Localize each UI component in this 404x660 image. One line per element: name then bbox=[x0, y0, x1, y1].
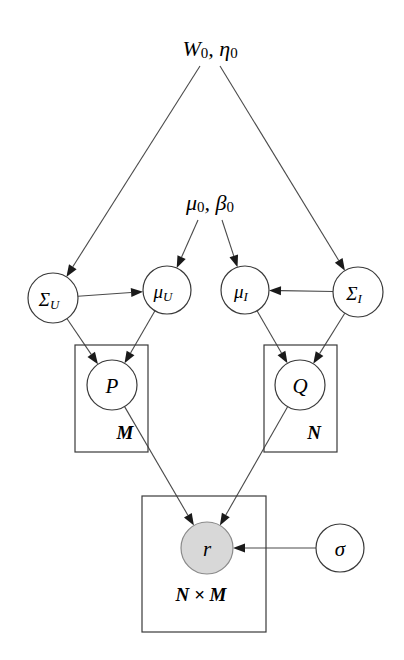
edge-sigmaI-to-muI bbox=[269, 286, 333, 295]
edge-sigmaU-to-P bbox=[67, 319, 98, 365]
node-label-P: P bbox=[105, 374, 119, 398]
arrowhead bbox=[269, 286, 281, 295]
arrowhead bbox=[313, 351, 323, 364]
arrowhead bbox=[220, 513, 230, 526]
hyperparam-W0_eta0: W0, η0 bbox=[182, 36, 237, 62]
edges-layer bbox=[66, 66, 345, 553]
node-label-sigma: σ bbox=[335, 537, 347, 561]
pgm-canvas: MNN × MΣUμUμIΣIPQrσW0, η0μ0, β0 bbox=[0, 0, 404, 660]
arrowhead bbox=[229, 254, 238, 267]
arrowhead bbox=[131, 288, 143, 297]
arrowhead bbox=[125, 351, 135, 364]
edge-sigmaU-to-muU bbox=[78, 288, 143, 297]
edge-W0-to-sigmaU bbox=[66, 66, 200, 277]
arrowhead bbox=[88, 352, 98, 364]
node-label-Q: Q bbox=[292, 374, 307, 398]
arrowhead bbox=[278, 351, 288, 364]
arrowhead bbox=[66, 264, 76, 277]
edge-mu0-to-muU bbox=[177, 220, 198, 268]
arrowhead bbox=[177, 255, 186, 268]
edge-P-to-r bbox=[125, 407, 194, 526]
hyperparam-mu0_beta0: μ0, β0 bbox=[185, 190, 234, 216]
edge-sigmaI-to-Q bbox=[313, 313, 345, 364]
arrowhead bbox=[233, 544, 245, 553]
plate-label-plate_M: M bbox=[116, 422, 135, 443]
edge-muU-to-P bbox=[125, 311, 155, 364]
nodes-layer bbox=[28, 266, 383, 574]
plate-label-plate_N: N bbox=[306, 422, 322, 443]
edge-muI-to-Q bbox=[257, 311, 287, 364]
arrowhead bbox=[184, 513, 194, 526]
edge-sigma-to-r bbox=[233, 544, 316, 553]
arrowhead bbox=[335, 258, 345, 271]
edge-Q-to-r bbox=[220, 407, 288, 526]
plate-label-plate_NxM: N × M bbox=[175, 584, 228, 605]
pgm-diagram: MNN × MΣUμUμIΣIPQrσW0, η0μ0, β0 bbox=[0, 0, 404, 660]
labels-layer: MNN × MΣUμUμIΣIPQrσW0, η0μ0, β0 bbox=[38, 36, 363, 605]
edge-mu0-to-muI bbox=[222, 220, 238, 267]
node-label-r: r bbox=[203, 537, 212, 561]
edge-W0-to-sigmaI bbox=[220, 66, 345, 271]
